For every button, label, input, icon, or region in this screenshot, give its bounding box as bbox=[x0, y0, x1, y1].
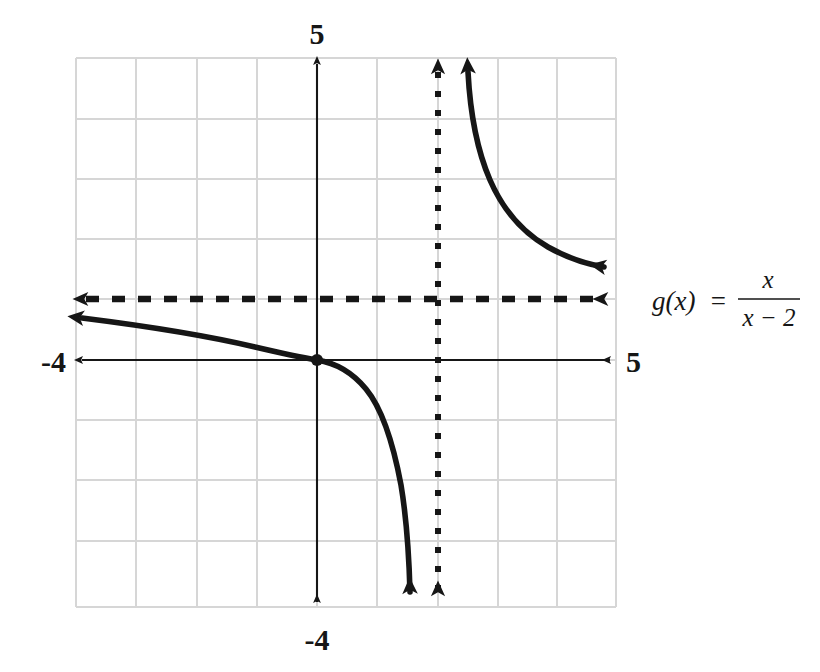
curve-right-branch bbox=[468, 72, 604, 267]
coordinate-plane: 5 -4 -4 5 g(x) = x x − 2 bbox=[0, 0, 820, 672]
graph-figure: 5 -4 -4 5 g(x) = x x − 2 bbox=[0, 0, 820, 672]
x-axis-right-label: 5 bbox=[626, 345, 641, 378]
y-axis-top-label: 5 bbox=[310, 17, 325, 50]
origin-point bbox=[311, 354, 323, 366]
equation-left-hand-side: g(x) bbox=[652, 286, 695, 316]
function-equation-label: g(x) = x x − 2 bbox=[652, 266, 800, 331]
equation-denominator: x − 2 bbox=[742, 304, 796, 331]
equation-numerator: x bbox=[761, 266, 773, 293]
x-axis-left-label: -4 bbox=[41, 345, 66, 378]
y-axis-bottom-label: -4 bbox=[305, 623, 330, 656]
equation-equals-sign: = bbox=[709, 286, 727, 316]
grid-lines bbox=[76, 58, 616, 607]
